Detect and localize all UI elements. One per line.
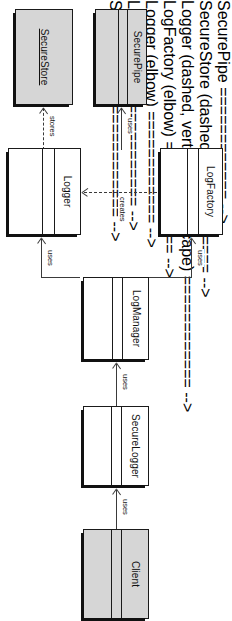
class-box-client[interactable]: Client bbox=[83, 529, 149, 619]
connector-line-segment bbox=[41, 239, 42, 278]
class-methods-compartment bbox=[84, 530, 111, 618]
class-name-label: SecureLogger bbox=[130, 414, 140, 478]
class-methods-compartment bbox=[96, 10, 118, 104]
class-attributes-compartment bbox=[112, 278, 123, 359]
class-box-securepipe[interactable]: SecurePipe bbox=[95, 9, 147, 105]
connector-label: uses bbox=[197, 249, 205, 267]
connector-label: uses bbox=[122, 498, 130, 516]
connector-line-segment bbox=[42, 277, 80, 278]
class-name-label: SecureStore bbox=[39, 29, 49, 86]
connector-line bbox=[84, 192, 157, 193]
class-name-compartment: SecureStore bbox=[16, 10, 72, 104]
connector-line bbox=[43, 108, 44, 150]
connector-label: uses bbox=[127, 117, 135, 135]
class-box-logger[interactable]: Logger bbox=[8, 148, 81, 235]
class-name-compartment: LogFactory bbox=[198, 149, 222, 234]
class-attributes-compartment bbox=[111, 407, 121, 485]
class-methods-compartment bbox=[84, 407, 111, 485]
class-name-label: Logger bbox=[62, 176, 72, 208]
class-name-compartment: Logger bbox=[54, 149, 80, 234]
class-box-logmanager[interactable]: LogManager bbox=[83, 277, 149, 360]
class-name-label: SecurePipe bbox=[132, 31, 142, 84]
class-methods-compartment bbox=[84, 278, 112, 359]
class-box-securestore[interactable]: SecureStore bbox=[15, 9, 73, 105]
class-box-logfactory[interactable]: LogFactory bbox=[160, 148, 223, 235]
class-name-compartment: Client bbox=[121, 530, 148, 618]
class-attributes-compartment bbox=[118, 10, 127, 104]
connector-label: uses bbox=[47, 249, 55, 267]
connector-line-segment bbox=[191, 239, 192, 278]
class-methods-compartment bbox=[161, 149, 187, 234]
connector-label: stores bbox=[49, 115, 57, 137]
connector-line bbox=[121, 108, 122, 150]
class-name-compartment: SecurePipe bbox=[127, 10, 146, 104]
class-attributes-compartment bbox=[111, 530, 121, 618]
class-name-compartment: SecureLogger bbox=[121, 407, 148, 485]
class-attributes-compartment bbox=[42, 149, 54, 234]
class-box-securelogger[interactable]: SecureLogger bbox=[83, 406, 149, 486]
class-attributes-compartment bbox=[187, 149, 197, 234]
class-name-label: Client bbox=[130, 561, 140, 587]
class-name-label: LogManager bbox=[131, 290, 141, 347]
class-methods-compartment bbox=[9, 149, 42, 234]
connector-label: creates bbox=[119, 196, 127, 223]
connector-label: uses bbox=[122, 373, 130, 391]
class-name-label: LogFactory bbox=[205, 166, 215, 217]
connector-line bbox=[116, 490, 117, 530]
class-name-compartment: LogManager bbox=[122, 278, 148, 359]
connector-line bbox=[116, 364, 117, 406]
